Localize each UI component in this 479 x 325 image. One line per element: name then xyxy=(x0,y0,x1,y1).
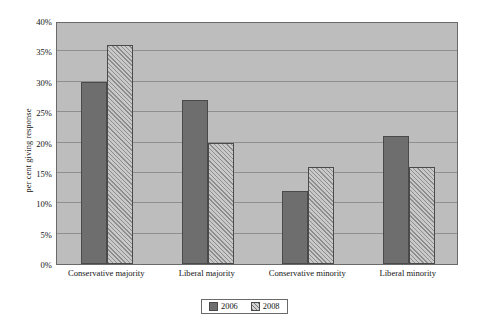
y-axis-tick-label: 20% xyxy=(36,139,52,149)
y-axis-tick-label: 15% xyxy=(36,169,52,179)
plot-area xyxy=(56,22,458,265)
chart-legend: 2006 2008 xyxy=(201,299,288,314)
bar-2006-liberal-majority xyxy=(182,100,208,264)
y-axis-tick-label: 40% xyxy=(36,17,52,27)
bar-2008-liberal-minority xyxy=(409,167,435,264)
legend-swatch-2008-icon xyxy=(251,302,260,311)
bar-2008-conservative-minority xyxy=(308,167,334,264)
bar-2008-conservative-majority xyxy=(107,45,133,264)
bar-2008-liberal-majority xyxy=(208,143,234,265)
legend-label-2006: 2006 xyxy=(221,302,238,311)
x-axis-category-label: Conservative minority xyxy=(269,268,346,278)
legend-item-2006: 2006 xyxy=(209,302,238,311)
legend-label-2008: 2008 xyxy=(263,302,280,311)
y-axis-tick-label: 10% xyxy=(36,199,52,209)
clipped-title-strip xyxy=(56,0,458,5)
bar-chart: per cent giving response 0%5%10%15%20%25… xyxy=(0,0,479,325)
x-axis-category-label: Conservative majority xyxy=(68,268,145,278)
x-axis-category-label: Liberal majority xyxy=(179,268,235,278)
bar-2006-liberal-minority xyxy=(383,136,409,264)
legend-item-2008: 2008 xyxy=(251,302,280,311)
legend-swatch-2006-icon xyxy=(209,302,218,311)
y-axis-tick-label: 25% xyxy=(36,108,52,118)
y-axis-tick-label: 35% xyxy=(36,47,52,57)
x-axis-category-label: Liberal minority xyxy=(379,268,436,278)
y-axis-tick-label: 30% xyxy=(36,78,52,88)
bar-2006-conservative-minority xyxy=(282,191,308,264)
y-axis-tick-labels: 0%5%10%15%20%25%30%35%40% xyxy=(22,22,52,265)
y-axis-tick-label: 5% xyxy=(41,230,52,240)
bar-2006-conservative-majority xyxy=(81,82,107,264)
x-axis-category-labels: Conservative majorityLiberal majorityCon… xyxy=(56,268,458,284)
y-axis-tick-label: 0% xyxy=(41,260,52,270)
